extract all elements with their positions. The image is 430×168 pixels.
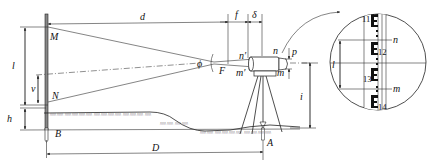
svg-text:ﾊﾊﾊ ﾊﾊﾊ ﾊﾊﾊ ﾊﾊﾊ ﾊﾊﾊ ﾊﾊﾊ ﾊﾊﾊ ﾊﾊ: ﾊﾊﾊ ﾊﾊﾊ ﾊﾊﾊ ﾊﾊﾊ ﾊﾊﾊ ﾊﾊﾊ ﾊﾊﾊ ﾊﾊﾊ ﾊﾊﾊ ﾊﾊﾊ … (50, 112, 151, 117)
telescope: n′ m′ n m p (236, 45, 297, 79)
label-M: M (49, 31, 59, 42)
tripod: A (240, 76, 282, 160)
staff-number-13: 13 (363, 74, 372, 84)
label-f: f (235, 9, 239, 20)
dimension-d: d (48, 11, 228, 24)
label-v: v (31, 83, 36, 94)
label-l-left: l (12, 60, 15, 71)
label-B: B (55, 128, 61, 139)
diagram-canvas: d f δ ϕ F n′ m′ n m p (0, 0, 430, 168)
label-N: N (51, 90, 60, 101)
svg-text:ﾊﾊﾊ ﾊﾊﾊ ﾊﾊﾊ ﾊﾊﾊ ﾊﾊﾊ ﾊﾊﾊ ﾊﾊﾊ ﾊﾊ: ﾊﾊﾊ ﾊﾊﾊ ﾊﾊﾊ ﾊﾊﾊ ﾊﾊﾊ ﾊﾊﾊ ﾊﾊﾊ ﾊﾊﾊ ﾊﾊﾊ ﾊﾊﾊ (200, 130, 271, 135)
label-d: d (140, 11, 146, 22)
inset-label-n: n (393, 34, 398, 45)
label-delta: δ (252, 9, 257, 20)
svg-text:ﾊﾊﾊ ﾊﾊﾊ ﾊﾊﾊ ﾊﾊﾊ: ﾊﾊﾊ ﾊﾊﾊ ﾊﾊﾊ ﾊﾊﾊ (160, 121, 188, 126)
inset-label-l: l (332, 59, 335, 70)
label-A: A (266, 137, 274, 148)
staff-number-14: 14 (378, 102, 387, 112)
callout-arrow (282, 12, 340, 53)
dimension-l-left: l (12, 27, 48, 105)
label-F: F (218, 65, 226, 76)
label-n-prime: n′ (239, 50, 247, 61)
label-phi: ϕ (197, 58, 202, 69)
label-h: h (7, 113, 12, 124)
dimension-D: D (47, 142, 263, 154)
leveling-staff (45, 14, 48, 158)
stadia-diagram: d f δ ϕ F n′ m′ n m p (0, 0, 430, 168)
label-m: m (277, 67, 284, 78)
staff-number-12: 12 (378, 47, 387, 57)
label-i: i (300, 91, 303, 102)
label-p: p (291, 46, 297, 57)
dimension-i: i (290, 63, 318, 128)
label-m-prime: m′ (236, 67, 246, 78)
label-D: D (151, 142, 160, 153)
inset-label-m: m (393, 83, 400, 94)
inset-eyepiece-view: 11 12 13 14 l n m (330, 10, 426, 120)
label-n: n (273, 45, 278, 56)
angle-phi: ϕ F (197, 54, 226, 76)
